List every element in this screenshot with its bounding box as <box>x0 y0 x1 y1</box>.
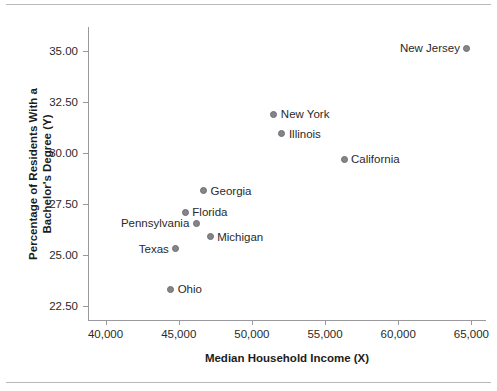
scatter-plot-figure: 22.5025.0027.5030.0032.5035.00 40,00045,… <box>0 0 497 391</box>
x-tick-mark <box>325 320 326 325</box>
x-tick-label: 60,000 <box>363 328 433 340</box>
y-tick-mark <box>83 255 89 256</box>
x-tick-mark <box>398 320 399 325</box>
data-point-marker[interactable] <box>172 245 179 252</box>
data-point-marker[interactable] <box>341 156 348 163</box>
x-tick-mark <box>106 320 107 325</box>
data-point-label: Illinois <box>289 128 321 140</box>
data-point-label: Georgia <box>211 185 252 197</box>
data-point-label: New York <box>281 108 330 120</box>
y-axis-title-line2: Bachelor's Degree (Y) <box>40 54 54 294</box>
y-tick-mark <box>83 204 89 205</box>
y-tick-label-text: 22.50 <box>22 300 78 312</box>
data-point-label: New Jersey <box>400 42 460 54</box>
plot-area: 22.5025.0027.5030.0032.5035.00 40,00045,… <box>0 0 497 391</box>
data-point-marker[interactable] <box>167 286 174 293</box>
y-axis-title: Percentage of Residents With a Bachelor'… <box>26 54 54 294</box>
data-point-label: Michigan <box>217 231 263 243</box>
x-tick-mark <box>471 320 472 325</box>
data-point-label: California <box>351 153 400 165</box>
data-point-marker[interactable] <box>207 233 214 240</box>
x-tick-mark <box>252 320 253 325</box>
data-point-label: Texas <box>139 243 169 255</box>
data-point-label: Ohio <box>178 283 202 295</box>
y-axis-title-line1: Percentage of Residents With a <box>26 54 40 294</box>
data-point-marker[interactable] <box>270 111 277 118</box>
x-tick-label: 50,000 <box>217 328 287 340</box>
y-axis-line <box>88 27 89 321</box>
data-point-marker[interactable] <box>278 130 285 137</box>
x-tick-mark <box>179 320 180 325</box>
data-point-marker[interactable] <box>200 187 207 194</box>
data-point-label: Pennsylvania <box>121 217 189 229</box>
y-tick-mark <box>83 51 89 52</box>
data-point-marker[interactable] <box>193 220 200 227</box>
data-point-marker[interactable] <box>463 45 470 52</box>
y-tick-mark <box>83 306 89 307</box>
data-point-marker[interactable] <box>182 209 189 216</box>
y-tick-mark <box>83 153 89 154</box>
x-axis-line <box>88 320 486 321</box>
y-tick-label: 22.50 <box>18 300 78 312</box>
x-tick-label: 65,000 <box>436 328 497 340</box>
x-tick-label: 45,000 <box>144 328 214 340</box>
data-point-label: Florida <box>192 206 227 218</box>
x-tick-label: 55,000 <box>290 328 360 340</box>
x-axis-title: Median Household Income (X) <box>88 352 486 364</box>
x-tick-label: 40,000 <box>71 328 141 340</box>
y-tick-mark <box>83 102 89 103</box>
